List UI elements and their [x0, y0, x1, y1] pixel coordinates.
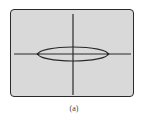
figure-caption: (a) — [0, 104, 148, 113]
left-vertex-point — [37, 53, 40, 56]
right-vertex-point — [107, 53, 110, 56]
plot-area — [0, 0, 148, 121]
